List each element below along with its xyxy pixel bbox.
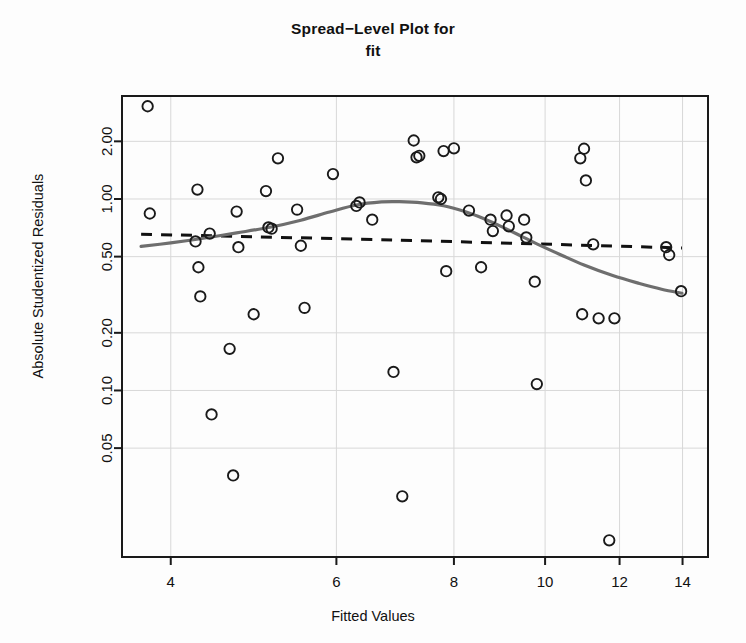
- data-point: [409, 135, 419, 145]
- data-point: [296, 241, 306, 251]
- data-point: [577, 309, 587, 319]
- data-point: [193, 262, 203, 272]
- data-point: [501, 210, 511, 220]
- data-point: [299, 303, 309, 313]
- svg-text:1.00: 1.00: [98, 184, 115, 213]
- svg-text:2.00: 2.00: [98, 127, 115, 156]
- data-point: [388, 367, 398, 377]
- svg-text:10: 10: [537, 573, 554, 590]
- data-point: [397, 491, 407, 501]
- data-point: [604, 535, 614, 545]
- svg-text:14: 14: [674, 573, 691, 590]
- svg-text:0.20: 0.20: [98, 318, 115, 347]
- data-point: [231, 206, 241, 216]
- data-point: [261, 186, 271, 196]
- data-point: [438, 146, 448, 156]
- data-point: [233, 242, 243, 252]
- smooth-curve: [141, 202, 682, 294]
- plot-svg: 4681012140.050.100.200.501.002.00: [0, 0, 746, 643]
- spread-level-plot-figure: Spread−Level Plot for fit 4681012140.050…: [0, 0, 746, 643]
- svg-text:6: 6: [332, 573, 340, 590]
- svg-text:4: 4: [167, 573, 175, 590]
- plot-frame: [122, 96, 708, 557]
- data-point: [488, 226, 498, 236]
- data-point: [530, 276, 540, 286]
- data-point: [519, 214, 529, 224]
- data-point: [228, 470, 238, 480]
- data-point: [581, 175, 591, 185]
- data-point: [192, 184, 202, 194]
- data-point: [248, 309, 258, 319]
- data-point: [532, 379, 542, 389]
- data-point: [145, 208, 155, 218]
- svg-text:0.50: 0.50: [98, 242, 115, 271]
- plot-canvas: 4681012140.050.100.200.501.002.00: [0, 0, 746, 643]
- data-points: [142, 101, 686, 545]
- gridlines: [122, 96, 708, 557]
- data-point: [195, 291, 205, 301]
- x-axis-label: Fitted Values: [0, 608, 746, 624]
- svg-text:0.10: 0.10: [98, 376, 115, 405]
- data-point: [579, 144, 589, 154]
- svg-text:8: 8: [450, 573, 458, 590]
- data-point: [224, 344, 234, 354]
- data-point: [441, 266, 451, 276]
- data-point: [609, 313, 619, 323]
- data-point: [273, 153, 283, 163]
- axis-ticks: [114, 141, 683, 565]
- svg-text:12: 12: [611, 573, 628, 590]
- svg-text:0.05: 0.05: [98, 434, 115, 463]
- data-point: [142, 101, 152, 111]
- data-point: [206, 409, 216, 419]
- data-point: [593, 313, 603, 323]
- y-axis-label: Absolute Studentized Residuals: [30, 146, 46, 406]
- data-point: [292, 204, 302, 214]
- data-point: [367, 214, 377, 224]
- data-point: [476, 262, 486, 272]
- axis-tick-labels: 4681012140.050.100.200.501.002.00: [98, 127, 691, 590]
